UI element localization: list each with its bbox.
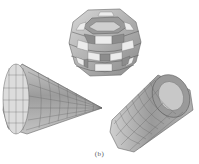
faceted-sphere [69,9,141,76]
figure-canvas [0,0,199,164]
faceted-cone [3,64,102,134]
faceted-cylinder [110,68,197,152]
figure-caption: (b) [0,150,199,158]
